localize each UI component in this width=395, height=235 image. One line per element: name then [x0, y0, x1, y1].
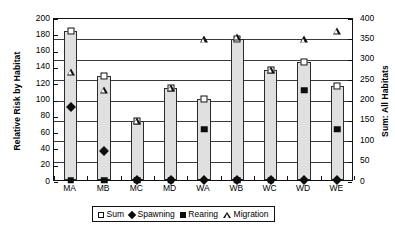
datapoint-rearing-WD — [301, 87, 308, 94]
y-left-tick-label: 100 — [36, 95, 50, 104]
x-tickmark — [187, 176, 188, 180]
datapoint-rearing-WA — [201, 126, 208, 133]
x-tick-label-WE: WE — [329, 183, 343, 193]
filled-square-icon — [180, 212, 186, 218]
x-tickmark — [354, 176, 355, 180]
y-left-tick-label: 0 — [45, 177, 50, 186]
legend-item-sum[interactable]: Sum — [98, 209, 124, 219]
y-right-tickmark — [348, 101, 352, 102]
datapoint-rearing-WE — [334, 126, 341, 133]
y-right-tickmark — [348, 39, 352, 40]
y-right-tick-label: 400 — [360, 14, 374, 23]
bar-WB — [231, 39, 244, 180]
y-left-tickmark — [54, 101, 58, 102]
x-tick-label-WC: WC — [263, 183, 277, 193]
y-right-tick-label: 250 — [360, 75, 374, 84]
y-left-tick-label: 140 — [36, 62, 50, 71]
y-right-tick-label: 150 — [360, 115, 374, 124]
bar-MD — [164, 88, 177, 180]
x-tickmark — [221, 176, 222, 180]
legend-item-rearing[interactable]: Rearing — [180, 209, 218, 219]
x-tick-label-MD: MD — [163, 183, 176, 193]
y-left-tickmark — [54, 166, 58, 167]
datapoint-migration-WB — [233, 34, 241, 41]
x-tickmark — [321, 176, 322, 180]
bar-MC — [131, 121, 144, 180]
y-left-tickmark — [54, 117, 58, 118]
datapoint-sum-MA — [67, 28, 74, 35]
y-right-tickmark — [348, 19, 352, 20]
y-right-tickmark — [348, 141, 352, 142]
y-left-tick-label: 20 — [41, 160, 50, 169]
y-right-tick-label: 350 — [360, 34, 374, 43]
y-right-tick-label: 50 — [360, 156, 369, 165]
open-square-icon — [98, 212, 104, 218]
y-right-tickmark — [348, 60, 352, 61]
y-right-tickmark — [348, 121, 352, 122]
datapoint-sum-MB — [101, 73, 108, 80]
y-left-tickmark — [54, 19, 58, 20]
datapoint-migration-WA — [200, 36, 208, 43]
bar-WA — [197, 99, 210, 181]
x-tickmark — [254, 176, 255, 180]
y-right-tickmark — [348, 162, 352, 163]
y-right-tick-label: 300 — [360, 54, 374, 63]
y-axis-left-title: Relative Risk by Habitat — [12, 29, 22, 174]
x-tickmark — [287, 176, 288, 180]
legend-item-label: Sum — [107, 209, 124, 219]
y-left-tick-label: 200 — [36, 14, 50, 23]
bar-WE — [331, 86, 344, 180]
y-left-tick-label: 120 — [36, 79, 50, 88]
y-left-tickmark — [54, 133, 58, 134]
datapoint-migration-MC — [133, 117, 141, 124]
y-left-tickmark — [54, 84, 58, 85]
y-right-tickmark — [348, 80, 352, 81]
bar-WC — [264, 70, 277, 180]
chart-figure: Relative Risk by Habitat Sum: All Habita… — [0, 0, 395, 235]
filled-diamond-icon — [128, 210, 136, 218]
y-left-tickmark — [54, 35, 58, 36]
x-tickmark — [121, 176, 122, 180]
x-tick-label-MB: MB — [97, 183, 110, 193]
y-right-tick-label: 200 — [360, 95, 374, 104]
y-left-tick-label: 80 — [41, 111, 50, 120]
y-left-tick-label: 180 — [36, 30, 50, 39]
datapoint-migration-MA — [67, 69, 75, 76]
datapoint-sum-WA — [201, 95, 208, 102]
x-tick-label-WA: WA — [196, 183, 209, 193]
y-left-tickmark — [54, 68, 58, 69]
x-tickmark — [87, 176, 88, 180]
datapoint-migration-WD — [300, 36, 308, 43]
y-left-tick-label: 60 — [41, 128, 50, 137]
datapoint-sum-WD — [301, 58, 308, 65]
x-tick-label-WB: WB — [229, 183, 243, 193]
x-tick-label-MA: MA — [63, 183, 76, 193]
legend-item-spawning[interactable]: Spawning — [129, 209, 175, 219]
bar-WD — [297, 62, 310, 180]
x-tickmark — [54, 176, 55, 180]
datapoint-migration-WE — [333, 28, 341, 35]
y-axis-right-ticks: 400350300250200150100500 — [360, 14, 386, 181]
datapoint-migration-WC — [267, 66, 275, 73]
datapoint-migration-MB — [100, 87, 108, 94]
plot-area — [53, 18, 353, 181]
y-left-tick-label: 160 — [36, 46, 50, 55]
datapoint-sum-WE — [334, 83, 341, 90]
legend-item-label: Rearing — [188, 209, 218, 219]
y-left-tick-label: 40 — [41, 144, 50, 153]
x-tick-label-MC: MC — [130, 183, 143, 193]
y-right-tick-label: 0 — [360, 177, 365, 186]
x-tick-label-WD: WD — [296, 183, 310, 193]
legend-item-migration[interactable]: Migration — [223, 209, 268, 219]
legend-item-label: Migration — [234, 209, 269, 219]
chart-legend: SumSpawningRearingMigration — [92, 206, 275, 222]
y-left-tickmark — [54, 52, 58, 53]
y-axis-left-ticks: 200180160140120100806040200 — [24, 14, 50, 181]
datapoint-migration-MD — [167, 85, 175, 92]
legend-item-label: Spawning — [137, 209, 174, 219]
y-right-tick-label: 100 — [360, 136, 374, 145]
x-tickmark — [154, 176, 155, 180]
x-axis-labels: MAMBMCMDWAWBWCWDWE — [53, 183, 353, 196]
y-left-tickmark — [54, 149, 58, 150]
open-triangle-icon — [223, 212, 231, 218]
